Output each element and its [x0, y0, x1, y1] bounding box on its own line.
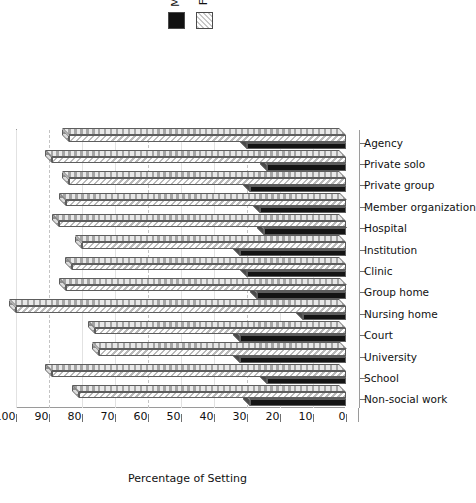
bar-face [66, 200, 347, 206]
bar-f-2 [99, 349, 347, 355]
axis-tick [49, 414, 50, 422]
bar-f-12 [69, 135, 346, 141]
bar-m-11 [267, 164, 346, 170]
bar-m-0 [250, 399, 346, 405]
axis-tick-label: 20 [266, 411, 280, 422]
bar-face [247, 271, 346, 277]
axis-tick-label: 50 [167, 411, 181, 422]
category-label-8: Hospital [364, 223, 407, 234]
axis-tick-label: 70 [101, 411, 115, 422]
bar-face [267, 164, 346, 170]
category-label-0: Non-social work [364, 394, 447, 405]
bar-face [250, 186, 346, 192]
axis-tick-label: 80 [68, 411, 82, 422]
bar-f-0 [79, 392, 346, 398]
bar-m-1 [267, 378, 346, 384]
bar-face [99, 349, 347, 355]
bar-f-6 [72, 264, 346, 270]
axis-tick [115, 414, 116, 422]
bar-face [66, 285, 347, 291]
axis-tick [82, 414, 83, 422]
bar-side [75, 235, 346, 242]
bar-m-6 [247, 271, 346, 277]
bar-m-3 [240, 335, 346, 341]
axis-tick [148, 414, 149, 422]
category-label-4: Nursing home [364, 309, 438, 320]
bar-f-4 [16, 306, 346, 312]
bar-side [92, 342, 347, 349]
bar-face [240, 250, 346, 256]
bar-face [52, 157, 346, 163]
category-label-9: Member organization [364, 202, 476, 213]
category-label-5: Group home [364, 287, 429, 298]
axis-tick-label: 40 [200, 411, 214, 422]
bar-f-5 [66, 285, 347, 291]
bar-side [65, 257, 346, 264]
bar-f-8 [59, 221, 346, 227]
bar-side [88, 321, 346, 328]
bar-m-5 [257, 293, 346, 299]
plot-floor [345, 130, 360, 408]
axis-tick-label: 60 [134, 411, 148, 422]
axis-tick [16, 414, 17, 422]
axis-tick [313, 414, 314, 422]
axis-tick [214, 414, 215, 422]
bar-face [69, 178, 346, 184]
bar-m-2 [240, 357, 346, 363]
bar-side [45, 364, 346, 371]
category-label-3: Court [364, 330, 393, 341]
bar-face [59, 221, 346, 227]
bar-m-4 [303, 314, 346, 320]
bar-face [16, 306, 346, 312]
axis-tick-label: 90 [35, 411, 49, 422]
bar-m-8 [264, 228, 347, 234]
bar-side [62, 128, 346, 135]
plot-area: 0102030405060708090100 Percentage of Set… [16, 130, 346, 408]
bar-face [69, 135, 346, 141]
bar-side [52, 214, 346, 221]
bar-m-12 [247, 143, 346, 149]
axis-tick-label: 30 [233, 411, 247, 422]
bar-face [95, 328, 346, 334]
bar-side [59, 193, 347, 200]
bar-face [247, 143, 346, 149]
gridline [16, 130, 17, 408]
bar-f-10 [69, 178, 346, 184]
bar-m-9 [260, 207, 346, 213]
axis-tick [280, 414, 281, 422]
category-label-11: Private solo [364, 159, 425, 170]
bar-side [72, 385, 346, 392]
bar-face [264, 228, 347, 234]
bar-f-7 [82, 242, 346, 248]
category-label-6: Clinic [364, 266, 393, 277]
bar-f-3 [95, 328, 346, 334]
bar-face [82, 242, 346, 248]
axis-tick [247, 414, 248, 422]
category-label-2: University [364, 352, 417, 363]
bar-f-9 [66, 200, 347, 206]
category-label-10: Private group [364, 180, 434, 191]
axis-tick-label: 10 [299, 411, 313, 422]
bar-m-10 [250, 186, 346, 192]
bar-face [303, 314, 346, 320]
bar-side [45, 150, 346, 157]
axis-tick-label: 0 [339, 411, 346, 422]
axis-tick [346, 414, 347, 422]
bar-m-7 [240, 250, 346, 256]
bar-face [72, 264, 346, 270]
axis-tick-label: 100 [0, 411, 16, 422]
bar-f-1 [52, 371, 346, 377]
axis-tick [181, 414, 182, 422]
bar-side [62, 171, 346, 178]
category-label-7: Institution [364, 245, 417, 256]
bar-side [59, 278, 347, 285]
bar-f-11 [52, 157, 346, 163]
value-axis-label: Percentage of Setting [128, 472, 247, 485]
bar-face [257, 293, 346, 299]
bar-face [250, 399, 346, 405]
bar-side [9, 299, 346, 306]
bar-face [79, 392, 346, 398]
bar-face [240, 357, 346, 363]
bar-face [240, 335, 346, 341]
